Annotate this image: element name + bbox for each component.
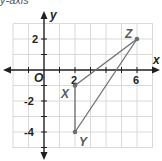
tick-marks (29, 39, 138, 148)
point-x (73, 83, 78, 88)
x-axis-right-arrow (152, 67, 160, 74)
point-y (73, 130, 78, 135)
y-axis-label: y (49, 8, 58, 22)
point-x-label: X (60, 87, 70, 101)
coordinate-plane: y x O 2 6 2 -2 -4 X Y Z (0, 0, 162, 161)
x-tick-label-6: 6 (133, 74, 139, 86)
origin-label: O (34, 71, 44, 85)
x-axis-left-arrow (3, 67, 11, 74)
y-tick-label-neg2: -2 (24, 95, 34, 107)
point-y-label: Y (79, 135, 88, 149)
y-tick-label-2: 2 (32, 33, 38, 45)
point-z-label: Z (124, 27, 133, 41)
y-axis-down-arrow (41, 152, 48, 160)
y-axis-up-arrow (41, 11, 48, 19)
point-z (135, 37, 140, 42)
y-tick-label-neg4: -4 (24, 126, 35, 138)
x-axis-label: x (152, 53, 161, 67)
